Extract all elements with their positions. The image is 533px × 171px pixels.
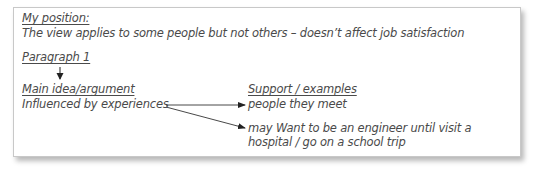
main-idea-text: Influenced by experiences: [22, 97, 169, 111]
main-idea-heading: Main idea/argument: [22, 82, 134, 96]
support-item: hospital / go on a school trip: [248, 135, 406, 149]
paragraph-heading: Paragraph 1: [22, 50, 90, 64]
support-item: people they meet: [248, 97, 347, 111]
position-heading: My position:: [22, 11, 89, 25]
support-item: may Want to be an engineer until visit a: [248, 121, 471, 135]
position-text: The view applies to some people but not …: [22, 26, 464, 40]
support-heading: Support / examples: [248, 82, 357, 96]
